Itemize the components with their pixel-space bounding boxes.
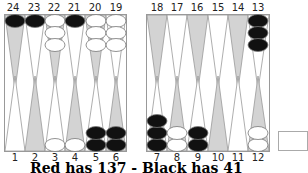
white-checker[interactable] (45, 27, 65, 40)
black-checker[interactable] (86, 127, 106, 140)
white-checker[interactable] (167, 139, 187, 152)
point-number-23: 23 (24, 2, 44, 13)
point-number-14: 14 (228, 2, 248, 13)
point-1[interactable] (5, 76, 25, 151)
white-checker[interactable] (45, 39, 65, 52)
backgammon-board (4, 14, 270, 152)
point-number-12: 12 (248, 152, 268, 163)
white-checker[interactable] (167, 127, 187, 140)
white-checker[interactable] (86, 27, 106, 40)
point-11[interactable] (228, 76, 248, 151)
black-checker[interactable] (147, 127, 167, 140)
white-checker[interactable] (106, 15, 126, 28)
point-number-24: 24 (3, 2, 23, 13)
doubling-cube-box[interactable] (278, 131, 308, 151)
white-checker[interactable] (86, 39, 106, 52)
black-checker[interactable] (188, 139, 208, 152)
white-checker[interactable] (86, 15, 106, 28)
black-checker[interactable] (106, 127, 126, 140)
white-checker[interactable] (248, 127, 268, 140)
black-checker[interactable] (248, 27, 268, 40)
point-number-20: 20 (85, 2, 105, 13)
point-number-21: 21 (64, 2, 84, 13)
black-checker[interactable] (106, 139, 126, 152)
pip-count-status: Red has 137 - Black has 41 (30, 160, 243, 173)
white-checker[interactable] (248, 139, 268, 152)
black-checker[interactable] (25, 15, 45, 28)
board-graphic (4, 14, 270, 152)
black-checker[interactable] (248, 15, 268, 28)
white-checker[interactable] (106, 39, 126, 52)
white-checker[interactable] (45, 15, 65, 28)
white-checker[interactable] (106, 27, 126, 40)
point-number-13: 13 (248, 2, 268, 13)
black-checker[interactable] (147, 139, 167, 152)
point-number-16: 16 (187, 2, 207, 13)
black-checker[interactable] (188, 127, 208, 140)
black-checker[interactable] (5, 15, 25, 28)
white-checker[interactable] (65, 139, 85, 152)
point-10[interactable] (208, 76, 228, 151)
point-number-1: 1 (5, 152, 25, 163)
point-number-18: 18 (147, 2, 167, 13)
black-checker[interactable] (147, 115, 167, 128)
black-checker[interactable] (86, 139, 106, 152)
point-number-22: 22 (44, 2, 64, 13)
point-number-19: 19 (106, 2, 126, 13)
white-checker[interactable] (45, 139, 65, 152)
point-number-17: 17 (167, 2, 187, 13)
black-checker[interactable] (248, 39, 268, 52)
point-2[interactable] (25, 76, 45, 151)
black-checker[interactable] (65, 15, 85, 28)
point-number-15: 15 (208, 2, 228, 13)
